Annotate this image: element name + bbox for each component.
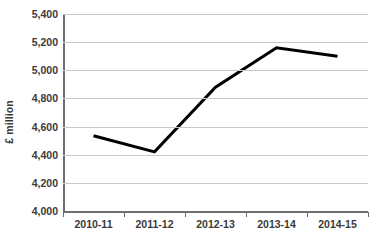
gridline (63, 42, 368, 43)
x-axis-tick-mark (185, 212, 186, 217)
x-axis-tick-label: 2010-11 (75, 218, 113, 230)
x-axis-tick-label: 2011-12 (136, 218, 174, 230)
gridline (63, 183, 368, 184)
y-axis-tick-label: 4,400 (14, 149, 58, 161)
x-axis-line (63, 211, 368, 213)
x-axis-tick-label: 2014-15 (318, 218, 357, 230)
y-axis-tick-labels: 4,0004,2004,4004,6004,8005,0005,2005,400 (14, 0, 58, 243)
x-axis-tick-mark (124, 212, 125, 217)
y-axis-tick-label: 4,800 (14, 92, 58, 104)
x-axis-tick-label: 2013-14 (257, 218, 296, 230)
x-axis-tick-label: 2012-13 (196, 218, 235, 230)
y-axis-tick-label: 4,600 (14, 121, 58, 133)
y-axis-tick-label: 4,000 (14, 205, 58, 217)
x-axis-tick-mark (63, 212, 64, 217)
plot-area (63, 14, 368, 211)
gridline (63, 14, 368, 15)
gridline (63, 70, 368, 71)
gridline (63, 98, 368, 99)
x-axis-tick-mark (368, 212, 369, 217)
series-line (94, 48, 338, 152)
gridline (63, 155, 368, 156)
gridline (63, 127, 368, 128)
y-axis-tick-label: 5,200 (14, 36, 58, 48)
line-chart: £ million 4,0004,2004,4004,6004,8005,000… (0, 0, 383, 243)
y-axis-tick-label: 5,000 (14, 64, 58, 76)
x-axis-tick-labels: 2010-112011-122012-132013-142014-15 (63, 218, 368, 240)
y-axis-tick-label: 4,200 (14, 177, 58, 189)
x-axis-tick-mark (307, 212, 308, 217)
x-axis-tick-mark (246, 212, 247, 217)
series-line-group (63, 14, 368, 211)
y-axis-tick-label: 5,400 (14, 8, 58, 20)
